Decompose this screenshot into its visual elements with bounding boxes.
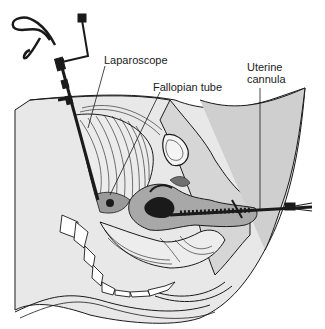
- pelvic-laparoscopy-illustration: [0, 0, 325, 329]
- laparoscope-label: Laparoscope: [104, 54, 168, 66]
- uterine-cannula-label-line1: Uterine: [247, 61, 286, 73]
- uterine-cannula-label: Uterine cannula: [247, 61, 286, 85]
- fallopian-tube-label: Fallopian tube: [153, 81, 222, 93]
- uterine-cannula-label-line2: cannula: [247, 73, 286, 85]
